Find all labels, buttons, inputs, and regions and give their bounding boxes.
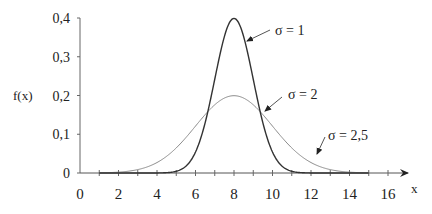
normal-distribution-chart: 00,10,20,30,4 0246810121416 f(x) x σ = 1… — [0, 0, 432, 214]
y-tick-label: 0,3 — [53, 50, 71, 65]
annotation-arrow-sigma-1 — [247, 30, 270, 41]
y-tick-label: 0 — [63, 166, 70, 181]
x-tick-label: 2 — [115, 186, 123, 202]
x-axis-label: x — [411, 181, 418, 196]
annotation-sigma-2: σ = 2 — [288, 87, 317, 102]
x-tick-label: 10 — [265, 186, 280, 202]
y-tick-label: 0,1 — [53, 127, 71, 142]
x-ticks: 0246810121416 — [76, 170, 396, 202]
annotation-arrow-sigma-2 — [265, 97, 282, 111]
x-tick-label: 8 — [230, 186, 238, 202]
annotation-arrow-sigma-2-5 — [317, 137, 325, 154]
y-axis-label: f(x) — [13, 88, 33, 103]
annotation-sigma-2-5: σ = 2,5 — [328, 128, 368, 143]
x-tick-label: 6 — [192, 186, 200, 202]
x-tick-label: 0 — [76, 186, 84, 202]
y-ticks: 00,10,20,30,4 — [53, 11, 81, 181]
x-tick-label: 12 — [304, 186, 319, 202]
x-tick-label: 16 — [381, 186, 397, 202]
x-tick-label: 14 — [342, 186, 358, 202]
annotation-sigma-1: σ = 1 — [275, 23, 304, 38]
x-tick-label: 4 — [153, 186, 161, 202]
y-tick-label: 0,4 — [53, 11, 71, 26]
y-tick-label: 0,2 — [53, 89, 71, 104]
